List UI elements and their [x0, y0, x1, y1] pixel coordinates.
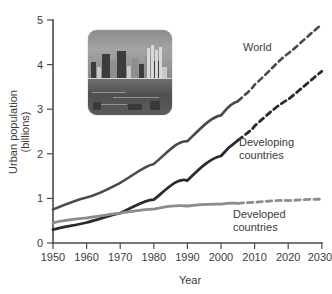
series-label-developed-line2: countries	[233, 221, 278, 233]
x-tick-label-1970: 1970	[108, 251, 132, 263]
y-tick-label-3: 3	[37, 103, 43, 115]
urban-waterfront-photo	[88, 30, 172, 115]
photo-smokestack	[159, 47, 162, 78]
x-tick-label-2030: 2030	[308, 251, 332, 263]
y-axis-title: Urban population (billions)	[7, 90, 31, 174]
y-tick-label-5: 5	[37, 14, 43, 26]
x-axis-title: Year	[179, 274, 202, 286]
series-label-world: World	[243, 41, 272, 53]
x-axis-ticks: 1950 1960 1970 1980 1990 2000 2010 2020 …	[41, 243, 332, 263]
series-developed-projection	[238, 199, 322, 203]
series-label-developed-line1: Developed	[233, 208, 286, 220]
x-tick-label-1980: 1980	[142, 251, 166, 263]
series-world-solid	[53, 101, 238, 209]
photo-water-ripple	[113, 97, 159, 98]
series-world-projection	[238, 24, 322, 101]
y-tick-label-0: 0	[37, 237, 43, 249]
series-developing-solid	[53, 140, 238, 229]
y-axis-title-line2: (billions)	[19, 112, 31, 153]
series-developing-projection	[238, 71, 322, 140]
photo-boat	[93, 102, 101, 110]
urban-population-figure: 0 1 2 3 4 5 1950 1960 1970 1980 1990 200…	[0, 0, 332, 294]
photo-building	[117, 51, 126, 79]
photo-smokestack	[147, 48, 150, 78]
series-label-developing-line2: countries	[239, 149, 284, 161]
photo-water-ripple	[98, 104, 127, 105]
x-tick-label-2020: 2020	[276, 251, 300, 263]
photo-canvas	[88, 30, 172, 115]
y-tick-label-4: 4	[37, 59, 43, 71]
y-tick-label-1: 1	[37, 192, 43, 204]
photo-boat	[128, 104, 141, 110]
x-tick-label-1990: 1990	[175, 251, 199, 263]
x-tick-label-1960: 1960	[74, 251, 98, 263]
photo-smokestack	[155, 50, 158, 78]
photo-building	[111, 61, 116, 80]
series-label-developing-line1: Developing	[239, 136, 294, 148]
photo-boat	[150, 101, 160, 110]
x-tick-label-2010: 2010	[242, 251, 266, 263]
series-developed-solid	[53, 203, 238, 223]
y-tick-label-2: 2	[37, 148, 43, 160]
photo-water-ripple	[92, 92, 126, 93]
photo-smokestack	[151, 45, 154, 77]
photo-building	[102, 54, 110, 80]
y-axis-ticks: 0 1 2 3 4 5	[37, 14, 53, 249]
photo-building	[132, 58, 139, 79]
x-tick-label-1950: 1950	[41, 251, 65, 263]
x-tick-label-2000: 2000	[209, 251, 233, 263]
y-axis-title-line1: Urban population	[7, 90, 19, 174]
